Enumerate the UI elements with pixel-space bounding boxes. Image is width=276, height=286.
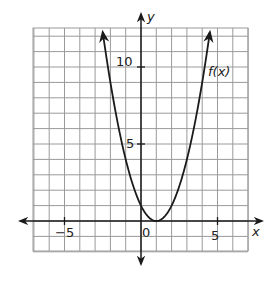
y-axis-label: y (146, 9, 155, 24)
x-tick-label-neg5: −5 (55, 225, 74, 240)
curve-label: f(x) (208, 64, 230, 79)
x-axis-label: x (251, 224, 260, 239)
function-graph: y x f(x) 0 −5 5 5 10 (0, 0, 276, 286)
y-tick-label-10: 10 (116, 54, 133, 69)
x-tick-label-5: 5 (211, 228, 219, 243)
y-tick-label-5: 5 (126, 136, 134, 151)
origin-label: 0 (142, 225, 150, 240)
